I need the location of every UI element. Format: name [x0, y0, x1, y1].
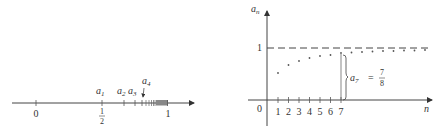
label-a4: a4	[142, 75, 151, 88]
figure-canvas: 0 1 2 1 a1 a2 a3 a4 an 1 0 n 1 2	[0, 0, 434, 131]
x-tick-labels: 1 2 3 4 5 6 7	[276, 106, 344, 117]
label-zero: 0	[34, 108, 39, 119]
x-tick-label: 6	[328, 106, 333, 117]
label-half-numerator: 1	[100, 107, 104, 116]
label-a1: a1	[96, 85, 105, 98]
a7-numerator: 7	[380, 68, 384, 77]
origin-label: 0	[257, 103, 262, 114]
x-tick-label: 5	[318, 106, 323, 117]
label-a3: a3	[128, 85, 137, 98]
accumulation-band	[156, 100, 168, 106]
x-tick-label: 1	[276, 106, 281, 117]
label-a2: a2	[117, 85, 126, 98]
number-line-figure: 0 1 2 1 a1 a2 a3 a4	[12, 75, 194, 126]
x-tick-label: 2	[286, 106, 291, 117]
a7-brace	[343, 55, 348, 100]
label-half-denominator: 2	[100, 117, 104, 126]
a7-denominator: 8	[380, 79, 384, 88]
y-tick-one: 1	[257, 42, 262, 53]
x-axis-label: n	[424, 103, 429, 114]
sequence-points	[277, 49, 426, 74]
sequence-plot-figure: an 1 0 n 1 2 3 4 5 6 7	[248, 3, 432, 126]
y-axis-label: an	[251, 3, 260, 16]
x-tick-label: 7	[339, 106, 344, 117]
a7-equals: =	[368, 72, 374, 83]
x-tick-label: 3	[297, 106, 302, 117]
a4-pointer-arrow	[143, 88, 144, 97]
label-one: 1	[166, 108, 171, 119]
a7-annotation: a7	[350, 72, 359, 85]
x-tick-label: 4	[307, 106, 312, 117]
